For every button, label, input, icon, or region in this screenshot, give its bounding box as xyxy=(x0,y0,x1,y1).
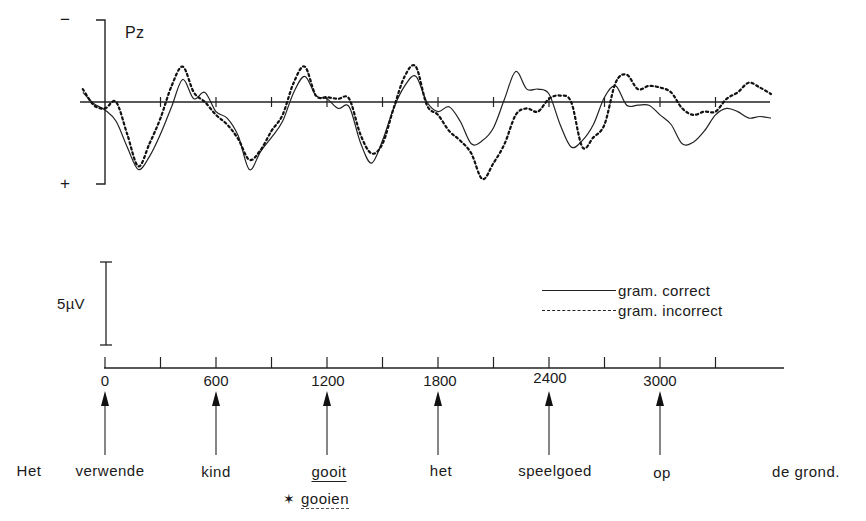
word-gooien-text: gooien xyxy=(301,490,349,509)
word-gooien: gooien xyxy=(301,490,349,507)
word-op: op xyxy=(653,464,671,481)
time-axis xyxy=(104,357,784,368)
scale-bar-label: 5µV xyxy=(57,295,85,312)
legend-item-correct: gram. correct xyxy=(542,280,723,300)
tick-label-3000: 3000 xyxy=(643,372,676,389)
tick-label-600: 600 xyxy=(203,372,228,389)
tick-label-0: 0 xyxy=(101,372,109,389)
word-het-2: het xyxy=(430,462,452,479)
positive-polarity-label: + xyxy=(60,174,70,194)
legend-label-incorrect: gram. incorrect xyxy=(618,302,723,319)
legend-label-correct: gram. correct xyxy=(618,282,710,299)
word-het-1: Het xyxy=(17,462,42,479)
legend-item-incorrect: gram. incorrect xyxy=(542,300,723,320)
legend: gram. correct gram. incorrect xyxy=(542,280,723,320)
electrode-label: Pz xyxy=(125,24,144,42)
word-kind: kind xyxy=(201,463,231,480)
ungrammatical-star-icon: ✶ xyxy=(283,491,295,507)
erp-chart xyxy=(0,0,866,521)
tick-label-2400: 2400 xyxy=(533,369,566,386)
word-de-grond: de grond. xyxy=(772,463,840,480)
word-onset-arrows xyxy=(101,391,664,455)
solid-line-swatch xyxy=(542,290,616,291)
waveform-panel xyxy=(80,20,771,184)
word-speelgoed: speelgoed xyxy=(518,462,592,479)
word-gooit-text: gooit xyxy=(311,463,346,482)
waveform-correct xyxy=(83,71,771,169)
tick-label-1200: 1200 xyxy=(311,372,344,389)
negative-polarity-label: − xyxy=(60,10,70,30)
scale-bar xyxy=(100,262,112,345)
dashed-line-swatch xyxy=(542,310,616,311)
word-verwende: verwende xyxy=(75,462,144,479)
tick-label-1800: 1800 xyxy=(423,372,456,389)
word-gooit: gooit xyxy=(311,463,346,480)
